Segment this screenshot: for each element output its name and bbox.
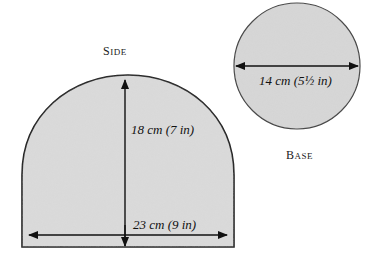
side-height-label: 18 cm (7 in) xyxy=(131,122,194,137)
base-diameter-label: 14 cm (5½ in) xyxy=(259,73,332,88)
side-piece: 18 cm (7 in) 23 cm (9 in) xyxy=(22,75,234,247)
base-piece: 14 cm (5½ in) xyxy=(234,3,360,129)
side-title: SIDE xyxy=(103,44,127,58)
side-width-label: 23 cm (9 in) xyxy=(133,217,196,232)
pattern-diagram: 18 cm (7 in) 23 cm (9 in) SIDE 14 cm (5½… xyxy=(0,0,381,264)
base-title: BASE xyxy=(286,148,313,162)
